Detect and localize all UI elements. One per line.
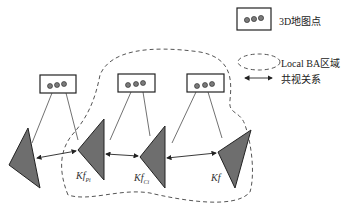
diagram-canvas [0,0,347,210]
legend-covisibility-label: 共视关系 [281,71,321,86]
covisibility-arrows [37,151,216,158]
observation-lines [32,92,222,143]
legend-map-point-label: 3D地图点 [279,13,321,28]
keyframe-label-current: Kf [211,172,220,183]
map-point-box-2 [118,74,155,92]
legend-local-ba-icon [238,54,280,70]
keyframe-triangle-0 [9,128,40,188]
legend-local-ba-label: Local BA区域 [281,55,340,70]
keyframe-triangle-current [218,130,251,188]
keyframe-label-ci: KfCi [134,172,149,185]
map-point-box-3 [187,74,224,92]
legend-map-point-icon [237,8,271,30]
keyframe-label-pi: KfPi [76,170,91,183]
map-point-box-1 [40,75,76,93]
